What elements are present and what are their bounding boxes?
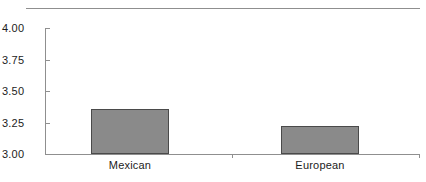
- y-axis-tick-label: 3.25: [2, 118, 40, 129]
- y-axis-tick: [45, 154, 50, 155]
- y-axis-tick-label: 3.75: [2, 55, 40, 66]
- y-axis-tick-label: 3.00: [2, 149, 40, 160]
- x-axis-tick: [232, 154, 233, 158]
- bar-chart-figure: 4.00 3.75 3.50 3.25 3.00 Mexican Europea…: [0, 0, 426, 182]
- y-axis-tick-label: 4.00: [2, 23, 40, 34]
- x-axis-tick: [419, 154, 420, 158]
- x-axis-category-label: Mexican: [90, 159, 170, 172]
- y-axis-tick: [45, 60, 50, 61]
- bar-mexican: [91, 109, 169, 154]
- y-axis-tick: [45, 28, 50, 29]
- y-axis-tick: [45, 123, 50, 124]
- y-axis-tick-label: 3.50: [2, 86, 40, 97]
- x-axis-category-label: European: [280, 159, 360, 172]
- y-axis-tick: [45, 91, 50, 92]
- bar-european: [281, 126, 359, 154]
- top-horizontal-rule: [26, 8, 420, 9]
